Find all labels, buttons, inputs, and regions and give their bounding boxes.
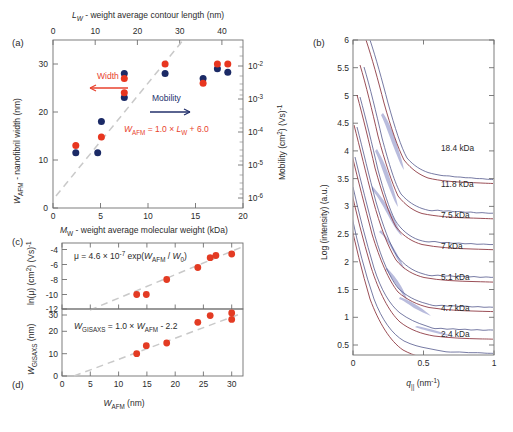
panel-b-y-axis-label: Log (intensity) (a.u.) xyxy=(319,184,329,260)
data-point xyxy=(98,134,105,141)
panel-d-y-tick-30: 30 xyxy=(49,310,59,320)
data-point xyxy=(133,291,140,298)
panel-b-curve-2.4kDa xyxy=(349,215,493,363)
panel-a-bottom-tick-5: 5 xyxy=(98,211,103,221)
panel-c: (c) -4 -6 -8 -10 -12 xyxy=(12,236,243,314)
data-point xyxy=(72,149,79,156)
panel-a-right-ticks: 10-2 10-3 10-4 10-5 10-6 xyxy=(238,47,264,203)
panel-b-frame xyxy=(353,40,494,355)
data-point xyxy=(162,61,169,68)
panel-a-letter: (a) xyxy=(12,37,24,48)
panel-b-x-axis-label: q|| (nm-1) xyxy=(406,377,440,391)
panel-d-x-tick-15: 15 xyxy=(142,379,152,389)
data-point xyxy=(213,252,220,259)
panel-b-x-tick-0: 0 xyxy=(351,358,356,368)
data-point xyxy=(228,316,235,323)
curve-label-4.7kDa: 4.7 kDa xyxy=(441,303,470,313)
panel-a-bottom-tick-15: 15 xyxy=(191,211,201,221)
panel-b-letter: (b) xyxy=(313,37,325,48)
panel-b-y-tick-6: 6 xyxy=(344,35,349,45)
data-point xyxy=(194,319,201,326)
panel-b-x-ticks: 0 0.5 1 xyxy=(351,40,497,368)
panel-d-x-ticks: 0 5 10 15 20 25 30 xyxy=(60,372,237,390)
panel-c-y-tick-2: -6 xyxy=(50,260,58,270)
data-point xyxy=(163,276,170,283)
data-point xyxy=(163,340,170,347)
panel-d-x-tick-20: 20 xyxy=(170,379,180,389)
panel-b-y-tick-5.5: 5.5 xyxy=(337,63,349,73)
figure-canvas: (a) LW - weight average contour length (… xyxy=(0,0,513,432)
panel-a-top-tick-40: 40 xyxy=(217,26,227,36)
panel-d-x-tick-0: 0 xyxy=(60,379,65,389)
data-point xyxy=(143,291,150,298)
data-point xyxy=(228,310,235,317)
panel-a-right-tick-2: 10-3 xyxy=(248,93,264,104)
panel-d-series xyxy=(133,310,235,358)
panel-b-y-tick-3.5: 3.5 xyxy=(337,174,349,184)
curve-label-11.8kDa: 11.8 kDa xyxy=(441,179,474,189)
data-point xyxy=(72,142,79,149)
panel-b-y-tick-2.5: 2.5 xyxy=(337,229,349,239)
panel-a-equation: WAFM = 1.0 × LW + 6.0 xyxy=(124,124,209,136)
panel-d-fit-line xyxy=(74,314,240,376)
panel-b-x-tick-1: 1 xyxy=(492,358,497,368)
panel-a-top-ticks: 0 10 20 30 40 xyxy=(51,26,227,45)
panel-a-bottom-tick-20: 20 xyxy=(238,211,248,221)
panel-d-y-tick-0: 0 xyxy=(53,371,58,381)
panel-a-right-tick-4: 10-5 xyxy=(248,159,264,170)
curve-label-2.4kDa: 2.4 kDa xyxy=(441,329,470,339)
data-point xyxy=(121,89,128,96)
panel-a-left-tick-0: 0 xyxy=(43,203,48,213)
panel-d-y-tick-10: 10 xyxy=(49,349,59,359)
panel-a-bottom-axis-label: MW - weight average molecular weight (kD… xyxy=(60,225,228,237)
panel-c-equation: μ = 4.6 × 10-7 exp(WAFM / W0) xyxy=(74,250,187,263)
panel-d-x-tick-10: 10 xyxy=(114,379,124,389)
panel-d-equation: WGISAXS = 1.0 × WAFM - 2.2 xyxy=(74,321,178,333)
panel-c-y-tick-4: -10 xyxy=(46,290,59,300)
multi-panel-figure: (a) LW - weight average contour length (… xyxy=(0,0,513,432)
panel-a-left-ticks: 0 10 20 30 xyxy=(39,59,58,213)
panel-a-mobility-label: Mobility xyxy=(152,93,182,103)
data-point xyxy=(194,264,201,271)
panel-b-y-tick-1: 1 xyxy=(344,312,349,322)
data-point xyxy=(143,342,150,349)
panel-a-right-tick-1: 10-2 xyxy=(248,60,264,71)
panel-a-right-axis-label: Mobility (cm2) (Vs)-1 xyxy=(276,104,287,180)
panel-d: (d) 0 10 20 30 0 5 10 15 20 25 30 xyxy=(12,309,243,410)
panel-a-mobility-annotation: Mobility xyxy=(150,93,190,115)
panel-a-left-tick-10: 10 xyxy=(39,155,49,165)
panel-d-y-ticks: 0 10 20 30 xyxy=(49,310,67,381)
curve-label-5.1kDa: 5.1 kDa xyxy=(441,272,470,282)
data-point xyxy=(207,312,214,319)
panel-a-right-tick-3: 10-4 xyxy=(248,126,264,137)
panel-d-y-axis-label: WGISAXS (nm) xyxy=(26,324,38,375)
panel-b-y-tick-3: 3 xyxy=(344,201,349,211)
panel-a-right-tick-5: 10-6 xyxy=(248,192,264,203)
panel-b-y-tick-1.5: 1.5 xyxy=(337,285,349,295)
panel-a-width-label: Width xyxy=(97,71,119,81)
panel-c-y-tick-3: -8 xyxy=(50,275,58,285)
panel-b-curve-labels: 18.4 kDa 11.8 kDa 7.5 kDa 7 kDa 5.1 kDa … xyxy=(441,143,475,339)
panel-b-x-tick-0.5: 0.5 xyxy=(418,358,430,368)
panel-a-top-tick-30: 30 xyxy=(175,26,185,36)
panel-a-left-tick-30: 30 xyxy=(39,59,49,69)
panel-c-letter: (c) xyxy=(12,236,23,247)
panel-d-x-tick-5: 5 xyxy=(88,379,93,389)
curve-label-7kDa: 7 kDa xyxy=(441,241,463,251)
panel-a-left-tick-20: 20 xyxy=(39,107,49,117)
data-point xyxy=(228,251,235,258)
data-point xyxy=(133,350,140,357)
data-point xyxy=(214,61,221,68)
panel-b-curves xyxy=(349,40,493,363)
panel-c-y-tick-1: -4 xyxy=(50,245,58,255)
panel-a-top-tick-0: 0 xyxy=(51,26,56,36)
data-point xyxy=(121,75,128,82)
data-point xyxy=(98,118,105,125)
panel-a-top-tick-10: 10 xyxy=(90,26,100,36)
panel-b-y-tick-5: 5 xyxy=(344,91,349,101)
panel-d-y-tick-20: 20 xyxy=(49,326,59,336)
panel-d-frame xyxy=(62,309,243,376)
data-point xyxy=(224,69,231,76)
panel-d-x-axis-label: WAFM (nm) xyxy=(103,398,144,410)
data-point xyxy=(94,149,101,156)
